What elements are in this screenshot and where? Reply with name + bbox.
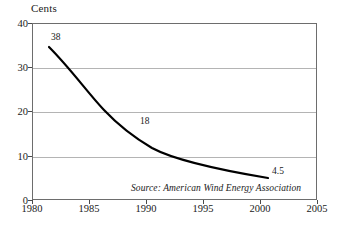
x-tick-label-1995: 1995 [181,203,225,215]
gridline-10 [33,157,316,158]
gridline-20 [33,112,316,113]
x-tick-label-1990: 1990 [124,203,168,215]
data-label-4-5: 4.5 [272,166,284,176]
y-axis-title: Cents [31,2,57,15]
x-tick-label-1980: 1980 [10,203,54,215]
source-attribution: Source: American Wind Energy Association [131,182,301,194]
x-tick-label-2000: 2000 [238,203,282,215]
y-tick-mark-40 [28,23,32,24]
y-tick-label-30: 30 [4,63,28,73]
y-tick-label-20: 20 [4,107,28,117]
y-tick-mark-10 [28,156,32,157]
y-tick-label-40: 40 [4,19,28,29]
data-label-38: 38 [51,32,61,42]
y-tick-label-10: 10 [4,152,28,162]
y-tick-mark-30 [28,67,32,68]
y-tick-mark-20 [28,111,32,112]
wind-energy-cost-chart: Cents 40 30 20 10 0 1980 1985 1990 1995 … [0,0,338,235]
data-label-18: 18 [140,116,150,126]
x-tick-label-1985: 1985 [67,203,111,215]
gridline-30 [33,68,316,69]
x-tick-label-2005: 2005 [295,203,338,215]
